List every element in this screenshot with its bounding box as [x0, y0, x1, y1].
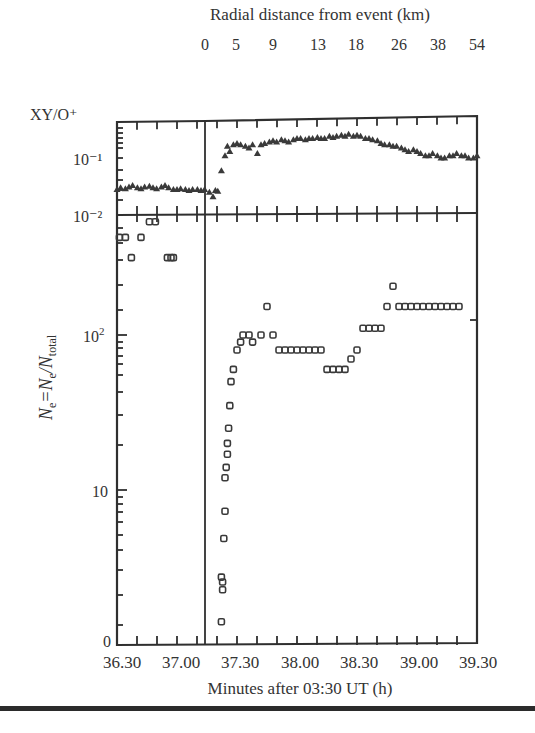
square-marker [264, 303, 270, 309]
x-tick-label: 38.30 [340, 653, 378, 672]
square-marker [330, 366, 336, 372]
square-marker [224, 440, 230, 446]
square-marker [227, 403, 233, 409]
square-marker [138, 234, 144, 240]
square-marker [372, 325, 378, 331]
top-ytick-label: 10⁻¹ [73, 151, 102, 168]
triangle-marker [249, 141, 256, 147]
x-tick-label: 39.00 [400, 653, 438, 672]
square-marker [288, 347, 294, 353]
triangle-marker [226, 148, 233, 154]
square-marker [342, 366, 348, 372]
square-marker [294, 347, 300, 353]
square-marker [270, 332, 276, 338]
square-marker [230, 366, 236, 372]
square-marker [146, 219, 152, 225]
square-marker [223, 464, 229, 470]
triangle-marker [429, 150, 436, 156]
x-tick-label: 39.30 [459, 653, 497, 672]
triangle-marker [453, 150, 460, 156]
bottom-ytick-label: 10 [92, 483, 108, 500]
bottom-square-series [116, 219, 462, 625]
bottom-ytick-label: 102 [83, 325, 105, 345]
km-tick-label: 38 [430, 36, 446, 53]
square-marker [378, 325, 384, 331]
square-marker [348, 356, 354, 362]
km-tick-label: 26 [391, 36, 407, 53]
km-tick-label: 0 [201, 36, 209, 53]
triangle-marker [474, 152, 481, 158]
top-ytick-label: 10⁻² [73, 208, 102, 225]
square-marker [384, 303, 390, 309]
triangle-marker [254, 150, 261, 156]
square-marker [354, 347, 360, 353]
square-marker [312, 347, 318, 353]
square-marker [450, 303, 456, 309]
square-marker [360, 325, 366, 331]
square-marker [224, 451, 230, 457]
square-marker [306, 347, 312, 353]
square-marker [258, 332, 264, 338]
top-triangle-series [114, 131, 481, 199]
square-marker [221, 536, 227, 542]
square-marker [246, 332, 252, 338]
square-marker [240, 332, 246, 338]
square-marker [414, 303, 420, 309]
square-marker [222, 475, 228, 481]
triangle-marker [218, 167, 225, 173]
square-marker [438, 303, 444, 309]
km-tick-label: 54 [469, 36, 485, 53]
page-divider-rule [0, 706, 535, 711]
square-marker [300, 347, 306, 353]
chart-figure: Radial distance from event (km) 0 5 9 13… [0, 0, 535, 733]
km-tick-label: 13 [310, 36, 326, 53]
km-tick-label: 18 [348, 36, 364, 53]
axes-frame [117, 116, 477, 645]
square-marker [238, 339, 244, 345]
square-marker [220, 587, 226, 593]
square-marker [318, 347, 324, 353]
x-tick-label: 38.00 [281, 653, 319, 672]
triangle-marker [129, 182, 136, 188]
top-axis-title: Radial distance from event (km) [210, 5, 430, 24]
square-marker [432, 303, 438, 309]
square-marker [226, 425, 232, 431]
square-marker [336, 366, 342, 372]
square-marker [408, 303, 414, 309]
square-marker [218, 619, 224, 625]
square-marker [456, 303, 462, 309]
square-marker [228, 379, 234, 385]
square-marker [396, 303, 402, 309]
km-tick-label: 9 [269, 36, 277, 53]
axis-ticks [117, 116, 477, 645]
bottom-ytick-label: 0 [103, 633, 111, 650]
triangle-marker [345, 131, 352, 137]
square-marker [222, 508, 228, 514]
x-tick-label: 37.00 [162, 653, 200, 672]
bottom-axis-title: Minutes after 03:30 UT (h) [208, 679, 393, 698]
square-marker [426, 303, 432, 309]
km-tick-label: 5 [232, 36, 240, 53]
square-marker [324, 366, 330, 372]
triangle-marker [224, 143, 231, 149]
x-tick-label: 37.30 [221, 653, 259, 672]
x-tick-label: 36.30 [103, 653, 141, 672]
top-panel-ylabel: XY/O⁺ [30, 106, 78, 123]
square-marker [128, 255, 134, 261]
bottom-axis-tick-labels: 36.30 37.00 37.30 38.00 38.30 39.00 39.3… [103, 653, 497, 672]
square-marker [250, 339, 256, 345]
square-marker [282, 347, 288, 353]
triangle-marker [333, 133, 340, 139]
square-marker [234, 347, 240, 353]
square-marker [402, 303, 408, 309]
square-marker [444, 303, 450, 309]
square-marker [420, 303, 426, 309]
bottom-panel-ylabel: Ne=Ne/Ntotal [36, 334, 59, 421]
square-marker [122, 234, 128, 240]
square-marker [390, 283, 396, 289]
square-marker [276, 347, 282, 353]
top-axis-tick-labels: 0 5 9 13 18 26 38 54 [201, 36, 485, 53]
square-marker [366, 325, 372, 331]
